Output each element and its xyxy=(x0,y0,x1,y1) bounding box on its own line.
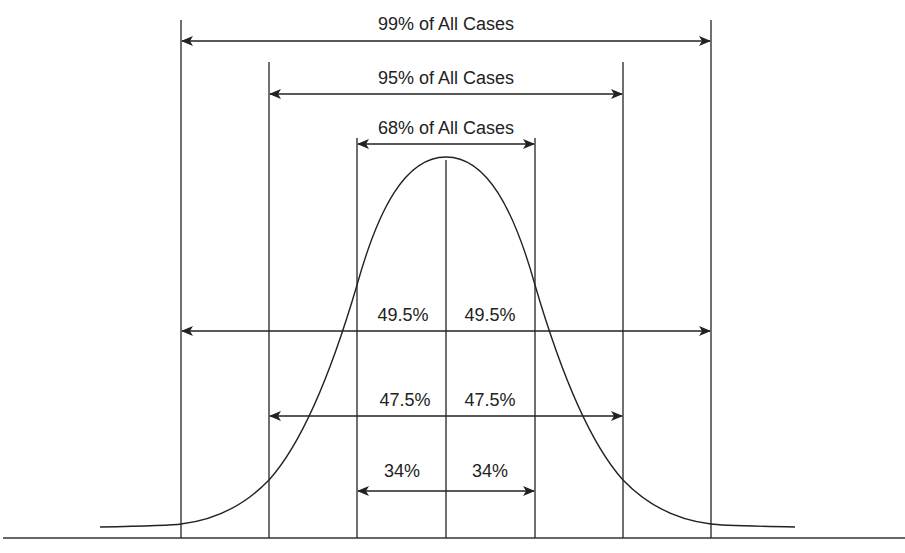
label-95pct: 95% of All Cases xyxy=(378,68,514,88)
bell-curve xyxy=(100,157,795,527)
label-47-5-right: 47.5% xyxy=(464,390,515,410)
sd-marker-lines xyxy=(181,20,711,538)
label-99pct: 99% of All Cases xyxy=(378,14,514,34)
label-68pct: 68% of All Cases xyxy=(378,118,514,138)
label-34-left: 34% xyxy=(384,461,420,481)
label-49-5-left: 49.5% xyxy=(377,305,428,325)
normal-distribution-diagram: 99% of All Cases 95% of All Cases 68% of… xyxy=(0,0,905,553)
label-49-5-right: 49.5% xyxy=(464,305,515,325)
label-47-5-left: 47.5% xyxy=(379,390,430,410)
label-34-right: 34% xyxy=(472,461,508,481)
